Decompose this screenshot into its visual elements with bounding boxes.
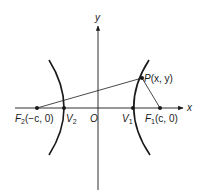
hyperbola-diagram: y x O P(x, y) F2(−c, 0) V2 V1 F1(c, 0) — [0, 0, 200, 195]
x-axis-label: x — [186, 102, 193, 113]
hyperbola-left-branch — [49, 60, 64, 155]
point-f2 — [35, 106, 39, 110]
point-v2-label: V2 — [66, 113, 77, 125]
y-axis-label: y — [94, 12, 101, 23]
point-p-label: P(x, y) — [144, 73, 173, 84]
segment-f2-p — [37, 78, 142, 108]
point-v2-sub: 2 — [73, 118, 77, 125]
point-v1-label: V1 — [122, 113, 133, 125]
point-v2 — [62, 106, 66, 110]
point-f1-label: F1(c, 0) — [145, 113, 178, 125]
point-f1 — [158, 106, 162, 110]
point-p-coords: (x, y) — [151, 73, 173, 84]
origin-label: O — [90, 113, 98, 124]
point-v1-sub: 1 — [129, 118, 133, 125]
point-v1 — [131, 106, 135, 110]
point-f2-coords: (−c, 0) — [25, 113, 54, 124]
point-f1-coords: (c, 0) — [155, 113, 178, 124]
point-f2-label: F2(−c, 0) — [15, 113, 54, 125]
